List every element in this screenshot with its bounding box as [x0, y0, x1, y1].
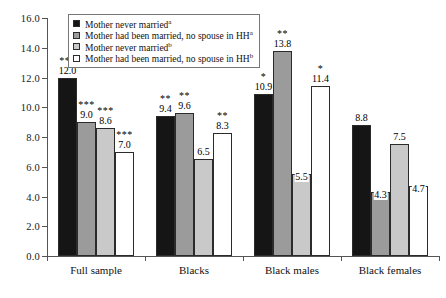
bar: ***8.6: [96, 128, 115, 256]
bar-value-label: ***7.0: [116, 131, 133, 150]
x-axis-tick-mark: [145, 256, 146, 261]
bar-value-label: ***8.6: [97, 107, 114, 126]
x-axis-tick-mark: [243, 256, 244, 261]
bar-value-label: 7.5: [393, 131, 406, 142]
bar: ***12.0: [58, 78, 77, 257]
significance-marker: **: [159, 95, 172, 103]
x-axis-category-label: Black females: [359, 264, 422, 276]
bar: **8.3: [213, 133, 232, 256]
bar-value-label: **13.8: [274, 30, 292, 49]
bar: **9.4: [156, 116, 175, 256]
legend-swatch-icon: [73, 32, 80, 39]
y-axis-tick-label: 10.0: [21, 102, 40, 113]
x-axis-category-label: Blacks: [179, 264, 209, 276]
y-axis-tick-label: 6.0: [26, 161, 40, 172]
bar: ***7.0: [115, 152, 134, 256]
significance-marker: **: [178, 92, 191, 100]
bar-value-label: **9.6: [178, 92, 191, 111]
bar-value-label: 8.8: [355, 112, 368, 123]
bar-group: 8.84.37.54.7: [341, 18, 439, 256]
bar: 8.8: [352, 125, 371, 256]
legend-item-label: Mother had been married, no spouse in HH…: [85, 51, 253, 65]
y-axis-tick-label: 8.0: [26, 132, 40, 143]
bar: **13.8: [273, 51, 292, 256]
x-axis-tick-mark: [439, 256, 440, 261]
significance-marker: **: [216, 112, 229, 120]
y-axis-tick-label: 2.0: [26, 221, 40, 232]
significance-marker: *: [255, 73, 273, 81]
x-axis-tick-mark: [341, 256, 342, 261]
y-axis-tick-label: 16.0: [21, 13, 40, 24]
x-axis-tick-mark: [47, 256, 48, 261]
significance-marker: ***: [116, 131, 133, 139]
bar: 7.5: [390, 144, 409, 256]
bar: 4.3: [371, 192, 390, 256]
legend-swatch-icon: [73, 55, 80, 62]
bar: ***9.0: [77, 122, 96, 256]
y-axis-tick-label: 4.0: [26, 191, 40, 202]
bar-value-label: 6.5: [197, 146, 210, 157]
bar-chart: 0.02.04.06.08.010.012.014.016.0 ***12.0*…: [0, 0, 446, 298]
bar-value-label: **8.3: [216, 112, 229, 131]
bar-value-label: *11.4: [312, 65, 329, 84]
y-axis-tick-label: 0.0: [26, 251, 40, 262]
significance-marker: *: [312, 65, 329, 73]
chart-legend: Mother never marriedaMother had been mar…: [68, 14, 260, 68]
bar-value-label: 5.5: [294, 171, 309, 182]
x-axis-category-label: Full sample: [70, 264, 122, 276]
legend-swatch-icon: [73, 43, 80, 50]
bar: **9.6: [175, 113, 194, 256]
legend-item: Mother had been married, no spouse in HH…: [73, 53, 253, 65]
bar: 6.5: [194, 159, 213, 256]
bar-value-label: ***9.0: [78, 101, 95, 120]
significance-marker: ***: [97, 107, 114, 115]
legend-swatch-icon: [73, 20, 80, 27]
x-axis-category-label: Black males: [265, 264, 319, 276]
bar: *10.9: [254, 94, 273, 256]
bar-value-label: *10.9: [255, 73, 273, 92]
bar-value-label: 4.7: [411, 183, 426, 194]
bar-value-label: **9.4: [159, 95, 172, 114]
y-axis-tick-label: 14.0: [21, 42, 40, 53]
significance-marker: ***: [78, 101, 95, 109]
significance-marker: **: [274, 30, 292, 38]
bar: *11.4: [311, 86, 330, 256]
bar: 5.5: [292, 174, 311, 256]
bar-value-label: 4.3: [373, 189, 388, 200]
y-axis-tick-label: 12.0: [21, 72, 40, 83]
bar: 4.7: [409, 186, 428, 256]
